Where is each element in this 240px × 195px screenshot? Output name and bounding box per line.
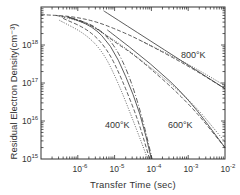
tick-exp: -6	[82, 163, 87, 169]
y-tick-1e18: 1018	[22, 39, 38, 50]
tick-exp: 16	[31, 115, 38, 121]
tick-exp: -2	[230, 163, 235, 169]
annotation-400k: 400°K	[105, 120, 130, 130]
annotation-800k: 800°K	[181, 50, 206, 60]
y-axis-label: Residual Electron Density(cm⁻³)	[8, 17, 19, 167]
x-tick-1e-6: 10-6	[73, 163, 88, 174]
tick-exp: 17	[31, 77, 38, 83]
x-tick-1e-3: 10-3	[184, 163, 199, 174]
x-tick-1e-4: 10-4	[147, 163, 162, 174]
x-tick-1e-2: 10-2	[221, 163, 236, 174]
curve-800k-asymptote	[104, 11, 225, 89]
y-tick-1e16: 1016	[22, 115, 38, 126]
tick-exp: -3	[193, 163, 198, 169]
curve-400k-curve-dashed-	[63, 18, 150, 159]
curve-400k-curve-dotted-	[59, 20, 147, 159]
y-tick-1e17: 1017	[22, 77, 38, 88]
data-curves	[41, 11, 225, 159]
curve-400k-curve-solid-	[67, 17, 152, 160]
annotation-600k: 600°K	[168, 120, 193, 130]
tick-exp: 18	[31, 39, 38, 45]
x-axis-label: Transfer Time (sec)	[41, 179, 225, 190]
y-tick-1e15: 1015	[22, 153, 38, 164]
tick-exp: -5	[119, 163, 124, 169]
tick-exp: 15	[31, 153, 38, 159]
tick-exp: -4	[156, 163, 161, 169]
x-tick-1e-5: 10-5	[110, 163, 125, 174]
